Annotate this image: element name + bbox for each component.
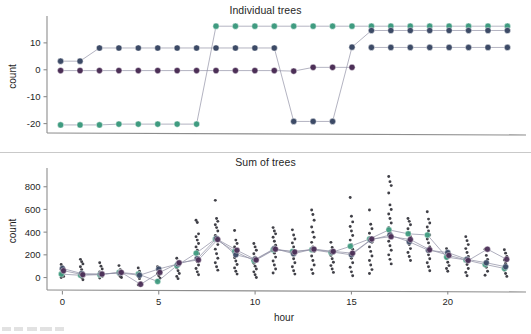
bottom-x-tick-label: 10 bbox=[250, 296, 261, 307]
scatter-point bbox=[387, 192, 390, 195]
scatter-point bbox=[292, 269, 295, 272]
scatter-point bbox=[233, 266, 236, 269]
scatter-point bbox=[485, 254, 488, 257]
scatter-point bbox=[272, 272, 275, 275]
top-line-tree-navy bbox=[61, 30, 508, 121]
scatter-point bbox=[407, 217, 410, 220]
scatter-point bbox=[350, 270, 353, 273]
scatter-point bbox=[368, 232, 371, 235]
scatter-point bbox=[236, 242, 239, 245]
mean-marker bbox=[193, 250, 199, 256]
top-marker bbox=[116, 67, 122, 73]
scatter-point bbox=[426, 210, 429, 213]
mean-marker bbox=[61, 268, 67, 274]
scatter-point bbox=[293, 273, 296, 276]
top-marker bbox=[407, 27, 413, 33]
scatter-point bbox=[329, 264, 332, 267]
top-marker bbox=[485, 44, 491, 50]
scatter-point bbox=[311, 213, 314, 216]
scatter-point bbox=[233, 229, 236, 232]
bottom-x-axis-spine bbox=[47, 290, 526, 292]
scatter-point bbox=[389, 203, 392, 206]
scatter-point bbox=[273, 240, 276, 243]
top-marker bbox=[388, 44, 394, 50]
scatter-point bbox=[389, 217, 392, 220]
mean-marker bbox=[176, 260, 182, 266]
top-y-tick-label: -10 bbox=[27, 91, 41, 102]
scatter-point bbox=[409, 259, 412, 262]
scatter-point bbox=[351, 220, 354, 223]
scatter-point bbox=[467, 267, 470, 270]
scatter-point bbox=[445, 267, 448, 270]
scatter-point bbox=[427, 253, 430, 256]
scatter-point bbox=[311, 231, 314, 234]
mean-marker bbox=[311, 246, 317, 252]
scatter-point bbox=[236, 263, 239, 266]
scatter-point bbox=[234, 270, 237, 273]
scatter-point bbox=[81, 278, 84, 281]
top-marker bbox=[193, 121, 199, 127]
scatter-point bbox=[293, 237, 296, 240]
mean-marker bbox=[292, 249, 298, 255]
scatter-point bbox=[387, 213, 390, 216]
top-marker bbox=[135, 67, 141, 73]
scatter-point bbox=[255, 249, 258, 252]
mean-marker bbox=[503, 264, 509, 270]
top-marker bbox=[271, 45, 277, 51]
mean-marker bbox=[369, 236, 375, 242]
top-marker bbox=[174, 121, 180, 127]
scatter-point bbox=[466, 274, 469, 277]
scatter-point bbox=[368, 272, 371, 275]
scatter-point bbox=[407, 251, 410, 254]
scatter-point bbox=[389, 180, 392, 183]
scatter-point bbox=[98, 261, 101, 264]
scatter-point bbox=[332, 271, 335, 274]
top-marker bbox=[368, 27, 374, 33]
scatter-point bbox=[79, 265, 82, 268]
scatter-point bbox=[255, 276, 258, 279]
scatter-point bbox=[466, 239, 469, 242]
mean-marker bbox=[465, 258, 471, 264]
top-marker bbox=[96, 122, 102, 128]
scatter-point bbox=[409, 247, 412, 250]
top-marker bbox=[213, 45, 219, 51]
bottom-y-tick-label: 400 bbox=[25, 227, 41, 238]
scatter-point bbox=[234, 260, 237, 263]
scatter-point bbox=[254, 273, 257, 276]
mean-marker bbox=[253, 257, 259, 263]
top-marker bbox=[232, 45, 238, 51]
scatter-point bbox=[311, 272, 314, 275]
scatter-point bbox=[311, 259, 314, 262]
scatter-point bbox=[292, 257, 295, 260]
scatter-point bbox=[214, 223, 217, 226]
top-marker bbox=[96, 67, 102, 73]
scatter-point bbox=[197, 273, 200, 276]
top-marker bbox=[193, 67, 199, 73]
scatter-point bbox=[408, 220, 411, 223]
scatter-point bbox=[464, 235, 467, 238]
scatter-point bbox=[350, 230, 353, 233]
top-marker bbox=[116, 45, 122, 51]
bottom-y-tick-label: 0 bbox=[35, 272, 40, 283]
scatter-point bbox=[310, 241, 313, 244]
top-marker bbox=[329, 64, 335, 70]
bottom-x-tick-label: 0 bbox=[60, 296, 65, 307]
scatter-point bbox=[272, 226, 275, 229]
scatter-point bbox=[214, 248, 217, 251]
scatter-point bbox=[390, 262, 393, 265]
scatter-point bbox=[390, 184, 393, 187]
scatter-point bbox=[503, 248, 506, 251]
top-marker bbox=[135, 121, 141, 127]
mean-marker bbox=[424, 232, 430, 238]
scatter-point bbox=[387, 240, 390, 243]
scatter-point bbox=[177, 269, 180, 272]
scatter-point bbox=[272, 236, 275, 239]
scatter-point bbox=[369, 264, 372, 267]
top-marker bbox=[174, 67, 180, 73]
bottom-x-axis-label: hour bbox=[274, 312, 295, 323]
scatter-point bbox=[389, 244, 392, 247]
scatter-point bbox=[448, 264, 451, 267]
mean-marker bbox=[234, 247, 240, 253]
scatter-point bbox=[313, 219, 316, 222]
scatter-point bbox=[387, 175, 390, 178]
